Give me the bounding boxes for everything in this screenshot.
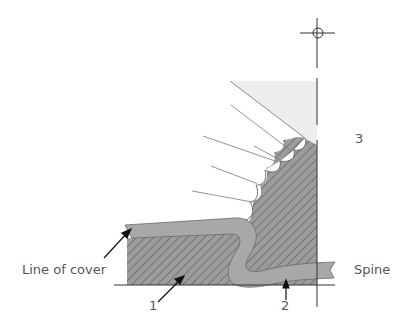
callout-3: 3 (355, 131, 363, 146)
label-line-of-cover: Line of cover (22, 262, 106, 277)
book-spine-diagram (0, 0, 410, 329)
callout-1: 1 (149, 298, 157, 313)
callout-2: 2 (281, 298, 289, 313)
hatched-spine-column (246, 137, 317, 270)
label-spine: Spine (354, 262, 390, 277)
